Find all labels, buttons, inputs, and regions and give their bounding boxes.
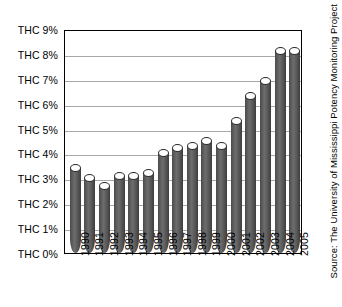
x-axis-tick-text: 1990 <box>79 232 91 256</box>
y-axis-tick-label: THC 4% <box>18 148 58 160</box>
x-axis-tick-text: 1994 <box>137 232 149 256</box>
source-note: Source: The University of Mississippi Po… <box>327 4 341 304</box>
bar-cap-icon <box>231 117 242 125</box>
y-axis-tick-label: THC 6% <box>18 99 58 111</box>
x-axis-tick-text: 2000 <box>225 232 237 256</box>
bar-cap-icon <box>114 172 125 180</box>
x-axis-tick-text: 1992 <box>108 232 120 256</box>
bar-cap-icon <box>99 182 110 190</box>
x-axis-tick-text: 1997 <box>181 232 193 256</box>
y-axis-labels: THC 0%THC 1%THC 2%THC 3%THC 4%THC 5%THC … <box>0 0 62 307</box>
bar-cap-icon <box>187 142 198 150</box>
x-axis-tick-text: 2001 <box>240 232 252 256</box>
x-axis-tick-text: 2002 <box>254 232 266 256</box>
x-axis-tick-text: 2004 <box>284 232 296 256</box>
bar-body <box>275 51 286 253</box>
y-axis-tick-label: THC 3% <box>18 173 58 185</box>
bar-body <box>260 81 271 253</box>
x-axis-labels: 1990199119921993199419951996199719981999… <box>64 256 302 307</box>
x-axis-tick-text: 1999 <box>210 232 222 256</box>
bar-body <box>289 51 300 253</box>
y-axis-tick-label: THC 0% <box>18 248 58 260</box>
bar-cap-icon <box>216 142 227 150</box>
plot-area <box>64 30 302 254</box>
y-axis-tick-label: THC 5% <box>18 124 58 136</box>
x-axis-tick-text: 1996 <box>167 232 179 256</box>
x-axis-tick-text: 2005 <box>298 232 310 256</box>
y-axis-tick-label: THC 9% <box>18 24 58 36</box>
bar <box>289 47 300 253</box>
x-axis-tick-text: 1991 <box>93 232 105 256</box>
y-axis-tick-label: THC 7% <box>18 74 58 86</box>
source-note-text: Source: The University of Mississippi Po… <box>328 4 339 278</box>
x-axis-tick-text: 2003 <box>269 232 281 256</box>
x-axis-tick-text: 1993 <box>123 232 135 256</box>
chart-container: THC 0%THC 1%THC 2%THC 3%THC 4%THC 5%THC … <box>0 0 342 307</box>
y-axis-tick-label: THC 1% <box>18 223 58 235</box>
x-axis-tick-text: 1998 <box>196 232 208 256</box>
bar-series <box>65 31 301 253</box>
bar <box>260 77 271 253</box>
bar-body <box>245 96 256 253</box>
bar <box>245 92 256 253</box>
y-axis-tick-label: THC 2% <box>18 198 58 210</box>
bar <box>275 47 286 253</box>
y-axis-tick-label: THC 8% <box>18 49 58 61</box>
x-axis-tick-text: 1995 <box>152 232 164 256</box>
